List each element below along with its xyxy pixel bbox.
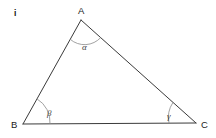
vertex-label-c: C [201,119,208,130]
angle-label-gamma: γ [167,111,171,121]
angle-label-alpha: α [82,42,87,52]
vertex-label-b: B [11,119,17,130]
vertex-label-a: A [78,5,85,16]
triangle-side-ab [23,20,81,124]
triangle-side-bc [23,123,196,124]
triangle-side-ac [81,20,196,123]
angle-label-beta: β [46,108,52,118]
triangle-diagram: A B C α β γ [0,0,216,138]
figure-canvas: i A B C α β γ [0,0,216,138]
